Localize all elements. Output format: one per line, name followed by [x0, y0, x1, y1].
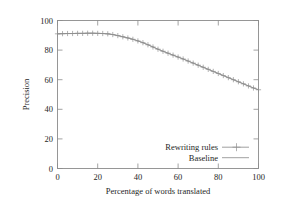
legend-label-rewriting-rules: Rewriting rules — [165, 142, 218, 152]
x-tick-label: 0 — [55, 172, 59, 182]
series-rewriting-rules — [55, 31, 261, 93]
y-axis-title: Precision — [21, 78, 31, 110]
x-tick-label: 40 — [134, 172, 143, 182]
x-axis-title: Percentage of words translated — [106, 186, 211, 196]
series-line — [58, 33, 259, 90]
y-tick-label: 0 — [49, 164, 53, 174]
x-axis-tick-labels: 0 20 40 60 80 100 — [55, 172, 265, 182]
y-tick-marks — [58, 21, 259, 169]
chart-figure: 0 20 40 60 80 100 0 20 40 60 80 100 Perc… — [0, 0, 287, 209]
plot-frame — [58, 21, 259, 169]
legend-sample-marker-rewriting-rules — [233, 143, 241, 151]
y-tick-label: 80 — [45, 45, 54, 55]
series-markers — [55, 31, 261, 93]
y-tick-label: 100 — [40, 16, 53, 26]
y-axis-tick-labels: 0 20 40 60 80 100 — [40, 16, 53, 174]
series-layer — [55, 31, 261, 93]
x-tick-label: 60 — [174, 172, 183, 182]
x-tick-label: 80 — [214, 172, 223, 182]
y-tick-label: 20 — [45, 134, 54, 144]
legend-label-baseline: Baseline — [189, 153, 218, 163]
series-baseline — [58, 33, 259, 90]
x-tick-label: 100 — [252, 172, 265, 182]
y-tick-label: 60 — [45, 75, 54, 85]
x-tick-label: 20 — [93, 172, 102, 182]
y-tick-label: 40 — [45, 104, 54, 114]
line-chart: 0 20 40 60 80 100 0 20 40 60 80 100 Perc… — [0, 0, 287, 209]
x-tick-marks — [58, 21, 259, 169]
series-line — [58, 33, 259, 90]
chart-legend: Rewriting rules Baseline — [165, 142, 249, 163]
